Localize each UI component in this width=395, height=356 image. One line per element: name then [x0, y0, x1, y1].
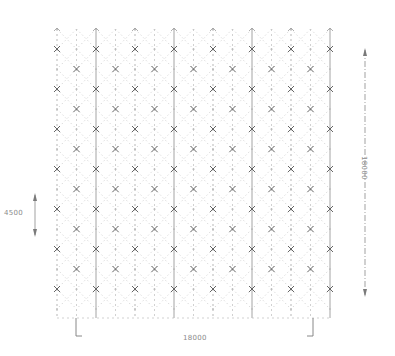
node-dot — [310, 128, 312, 130]
node-dot — [251, 188, 253, 190]
node-dot — [232, 288, 234, 290]
node-dot — [134, 148, 136, 150]
node-dot — [95, 108, 97, 110]
node-dot — [115, 168, 117, 170]
node-dot — [271, 88, 273, 90]
diagram-canvas: 18000 4500 18000 — [0, 0, 395, 356]
node-dot — [76, 168, 78, 170]
node-dot — [95, 188, 97, 190]
node-dot — [154, 48, 156, 50]
node-dot — [329, 188, 331, 190]
node-dot — [173, 108, 175, 110]
node-dot — [173, 268, 175, 270]
node-dot — [115, 248, 117, 250]
node-dot — [232, 48, 234, 50]
dimension-label-left: 4500 — [4, 209, 23, 217]
node-dot — [76, 48, 78, 50]
node-dot — [290, 268, 292, 270]
node-dot — [232, 88, 234, 90]
node-dot — [251, 308, 253, 310]
node-dot — [193, 48, 195, 50]
node-dot — [115, 288, 117, 290]
node-dot — [251, 268, 253, 270]
node-dot — [134, 268, 136, 270]
node-dot — [56, 68, 58, 70]
node-dot — [154, 248, 156, 250]
node-dot — [154, 288, 156, 290]
node-dot — [232, 128, 234, 130]
dimension-label-right: 18000 — [360, 156, 368, 180]
node-dot — [173, 308, 175, 310]
node-dot — [115, 208, 117, 210]
node-dot — [310, 48, 312, 50]
node-dot — [76, 288, 78, 290]
node-dot — [329, 268, 331, 270]
node-dot — [212, 228, 214, 230]
node-dot — [134, 68, 136, 70]
node-dot — [251, 228, 253, 230]
node-dot — [329, 148, 331, 150]
node-dot — [329, 228, 331, 230]
node-dot — [134, 308, 136, 310]
node-dot — [56, 268, 58, 270]
node-dot — [193, 168, 195, 170]
node-dot — [290, 228, 292, 230]
node-dot — [290, 108, 292, 110]
node-dot — [115, 128, 117, 130]
node-dot — [232, 168, 234, 170]
node-dot — [290, 68, 292, 70]
node-dot — [290, 148, 292, 150]
node-dot — [251, 108, 253, 110]
node-dot — [251, 148, 253, 150]
node-dot — [212, 108, 214, 110]
node-dot — [329, 308, 331, 310]
node-dot — [271, 288, 273, 290]
node-dot — [76, 208, 78, 210]
node-dot — [193, 88, 195, 90]
node-dot — [310, 248, 312, 250]
node-dot — [310, 288, 312, 290]
dimension-label-bottom: 18000 — [183, 334, 207, 342]
node-dot — [134, 188, 136, 190]
node-dot — [232, 248, 234, 250]
dimension-leader-right — [307, 318, 313, 336]
node-dot — [212, 68, 214, 70]
node-dot — [271, 208, 273, 210]
node-dot — [193, 208, 195, 210]
node-dot — [193, 288, 195, 290]
node-dot — [154, 88, 156, 90]
node-dot — [212, 188, 214, 190]
node-dot — [154, 128, 156, 130]
node-dot — [212, 268, 214, 270]
node-dot — [95, 308, 97, 310]
node-dot — [115, 48, 117, 50]
node-dot — [173, 188, 175, 190]
node-dot — [95, 148, 97, 150]
node-dot — [310, 168, 312, 170]
node-dot — [95, 268, 97, 270]
node-dot — [154, 208, 156, 210]
node-dot — [173, 228, 175, 230]
node-dot — [56, 228, 58, 230]
node-dot — [76, 88, 78, 90]
node-dot — [329, 68, 331, 70]
node-dot — [290, 308, 292, 310]
node-dot — [134, 228, 136, 230]
node-dot — [95, 68, 97, 70]
node-dot — [193, 248, 195, 250]
node-dot — [271, 168, 273, 170]
node-dot — [173, 68, 175, 70]
arrow-down-icon — [33, 229, 37, 237]
node-dot — [271, 128, 273, 130]
node-dot — [154, 168, 156, 170]
space-frame-grid — [0, 0, 395, 356]
node-dot — [76, 248, 78, 250]
node-dot — [310, 88, 312, 90]
node-dot — [56, 188, 58, 190]
node-dot — [193, 128, 195, 130]
node-dot — [271, 248, 273, 250]
node-dot — [212, 308, 214, 310]
dimension-leader-left — [76, 318, 82, 336]
node-dot — [134, 108, 136, 110]
node-dot — [329, 108, 331, 110]
